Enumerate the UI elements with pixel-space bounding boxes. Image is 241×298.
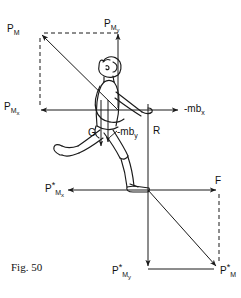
figure-50-diagram: PM PMy PMx -mbx G -mby R P*Mx F P*My P*M… bbox=[0, 0, 241, 298]
label-f-right-text: F bbox=[215, 175, 221, 186]
runner-figure bbox=[54, 57, 152, 192]
label-p-m-star-bottom: P*M bbox=[220, 263, 236, 278]
p-m-resultant-arrow bbox=[42, 35, 118, 110]
label-f-right: F bbox=[215, 176, 221, 186]
runner-hand-far bbox=[142, 108, 152, 114]
label-r-vertical-text: R bbox=[153, 125, 160, 136]
label-p-mx-star-left-text: P*Mx bbox=[45, 183, 64, 194]
runner-front-shin-back bbox=[121, 159, 127, 187]
label-p-my-top: PMy bbox=[104, 19, 120, 33]
label-g-center: G bbox=[88, 128, 96, 138]
runner-rear-shin-lower bbox=[62, 153, 79, 156]
p-m-star-resultant-arrow bbox=[148, 190, 216, 266]
runner-face-detail bbox=[113, 62, 117, 72]
runner-rear-shin bbox=[62, 146, 78, 148]
label-p-my-top-text: PMy bbox=[104, 18, 120, 29]
upper-vector-group bbox=[40, 33, 178, 110]
label-p-m-top: PM bbox=[7, 24, 20, 36]
label-p-m-star-bottom-text: P*M bbox=[220, 265, 236, 276]
label-mb-y-center: -mby bbox=[117, 127, 138, 139]
label-p-mx-left-text: PMx bbox=[4, 101, 20, 112]
runner-shoulder bbox=[104, 81, 114, 83]
label-p-mx-left: PMx bbox=[4, 102, 20, 116]
label-mb-y-center-text: -mby bbox=[117, 126, 138, 137]
label-mb-x-right: -mbx bbox=[184, 104, 205, 116]
force-vector-diagram-svg bbox=[0, 0, 241, 298]
label-p-mx-star-left: P*Mx bbox=[45, 181, 64, 199]
figure-caption: Fig. 50 bbox=[11, 261, 42, 273]
runner-rear-thigh-lower bbox=[79, 138, 103, 153]
label-p-my-star-bottom: P*My bbox=[112, 263, 131, 281]
label-mb-x-right-text: -mbx bbox=[184, 103, 205, 114]
label-p-m-top-text: PM bbox=[7, 23, 20, 34]
runner-ear-detail bbox=[106, 66, 109, 70]
lower-vector-group bbox=[68, 190, 219, 269]
label-p-my-star-bottom-text: P*My bbox=[112, 265, 131, 276]
runner-rear-foot bbox=[54, 145, 62, 155]
label-g-center-text: G bbox=[88, 127, 96, 138]
label-r-vertical: R bbox=[153, 126, 160, 136]
runner-front-shin bbox=[128, 157, 134, 186]
